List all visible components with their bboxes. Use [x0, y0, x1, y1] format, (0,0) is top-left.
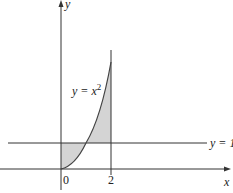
shaded-region-upper: [86, 62, 111, 143]
shaded-region-lower: [61, 143, 86, 169]
origin-label: 0: [63, 173, 69, 187]
x-axis-arrow-icon: [224, 167, 231, 172]
x-axis-label: x: [223, 175, 230, 189]
diagram-canvas: y x 0 2 y = x2 y = 1: [0, 0, 233, 193]
tick-label-2: 2: [108, 173, 114, 187]
line-label: y = 1: [209, 136, 233, 150]
y-axis-label: y: [64, 0, 71, 11]
curve-label: y = x2: [71, 82, 101, 98]
y-axis-arrow-icon: [59, 0, 64, 7]
